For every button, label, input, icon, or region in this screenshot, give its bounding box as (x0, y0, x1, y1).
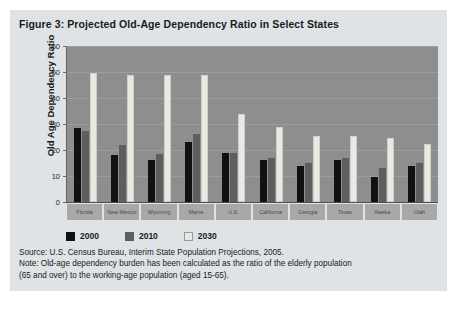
figure-title: Figure 3: Projected Old-Age Dependency R… (19, 18, 339, 30)
bar-utah-2010 (416, 163, 423, 202)
x-axis-label: Maine (179, 204, 214, 220)
bar-new-mexico-2000 (111, 155, 118, 202)
bar-group (141, 46, 178, 202)
y-tick-label: 0 (56, 198, 60, 207)
bar-georgia-2030 (313, 136, 320, 202)
bar-u-s--2010 (230, 153, 237, 202)
bar-california-2010 (268, 158, 275, 202)
legend-label: 2000 (80, 231, 99, 241)
x-axis-line (66, 202, 438, 203)
bar-maine-2010 (193, 134, 200, 202)
y-tick-label: 50 (52, 68, 60, 77)
x-axis-label: Wyoming (141, 204, 176, 220)
legend-label: 2010 (139, 231, 158, 241)
bar-group (104, 46, 141, 202)
x-axis-label: Alaska (365, 204, 400, 220)
y-axis-ticks: 0102030405060 (37, 46, 63, 202)
y-tick-label: 60 (52, 42, 60, 51)
chart-legend: 200020102030 (66, 231, 217, 241)
bar-group (290, 46, 327, 202)
bar-california-2030 (276, 127, 283, 202)
legend-item-2010: 2010 (125, 231, 158, 241)
bar-alaska-2000 (371, 177, 378, 202)
y-tick-label: 20 (52, 146, 60, 155)
bar-series-container (67, 46, 438, 202)
bar-group (178, 46, 215, 202)
note-line-1: Note: Old-age dependency burden has been… (19, 258, 438, 269)
bar-texas-2000 (334, 160, 341, 202)
bar-florida-2030 (90, 73, 97, 202)
bar-group (401, 46, 438, 202)
bar-florida-2000 (74, 128, 81, 202)
bar-wyoming-2030 (164, 75, 171, 202)
bar-u-s--2030 (238, 114, 245, 202)
bar-new-mexico-2010 (119, 145, 126, 202)
bar-group (252, 46, 289, 202)
bar-texas-2030 (350, 136, 357, 202)
x-axis-label: Georgia (290, 204, 325, 220)
bar-california-2000 (260, 160, 267, 202)
x-axis-label: Texas (327, 204, 362, 220)
bar-utah-2030 (424, 144, 431, 203)
bar-group (67, 46, 104, 202)
bar-alaska-2030 (387, 138, 394, 202)
bar-utah-2000 (408, 166, 415, 202)
figure-panel: Figure 3: Projected Old-Age Dependency R… (10, 10, 447, 291)
legend-swatch-icon (66, 232, 75, 241)
bar-texas-2010 (342, 158, 349, 202)
bar-georgia-2000 (297, 166, 304, 202)
y-tick-label: 10 (52, 172, 60, 181)
x-axis-labels: FloridaNew MexicoWyomingMaineU.S.Califor… (66, 204, 438, 220)
bar-new-mexico-2030 (127, 75, 134, 202)
x-axis-label: California (253, 204, 288, 220)
bar-wyoming-2000 (148, 160, 155, 202)
plot-area (66, 46, 438, 202)
y-tick-label: 40 (52, 94, 60, 103)
legend-swatch-icon (125, 232, 134, 241)
bar-georgia-2010 (305, 163, 312, 202)
bar-u-s--2000 (222, 153, 229, 202)
x-axis-label: U.S. (216, 204, 251, 220)
bar-group (364, 46, 401, 202)
note-line-2: (65 and over) to the working-age populat… (19, 270, 438, 281)
x-axis-label: New Mexico (104, 204, 139, 220)
x-axis-label: Utah (402, 204, 437, 220)
bar-maine-2030 (201, 75, 208, 202)
legend-item-2000: 2000 (66, 231, 99, 241)
legend-label: 2030 (198, 231, 217, 241)
figure-notes: Source: U.S. Census Bureau, Interim Stat… (19, 247, 438, 281)
bar-alaska-2010 (379, 168, 386, 202)
bar-group (327, 46, 364, 202)
bar-maine-2000 (185, 142, 192, 202)
y-tick-label: 30 (52, 120, 60, 129)
bar-florida-2010 (82, 131, 89, 203)
legend-item-2030: 2030 (184, 231, 217, 241)
x-axis-label: Florida (67, 204, 102, 220)
chart-container: Old Age Dependency Ratio 0102030405060 F… (19, 34, 438, 226)
bar-group (215, 46, 252, 202)
legend-swatch-icon (184, 232, 193, 241)
source-line: Source: U.S. Census Bureau, Interim Stat… (19, 247, 438, 258)
bar-wyoming-2010 (156, 154, 163, 202)
